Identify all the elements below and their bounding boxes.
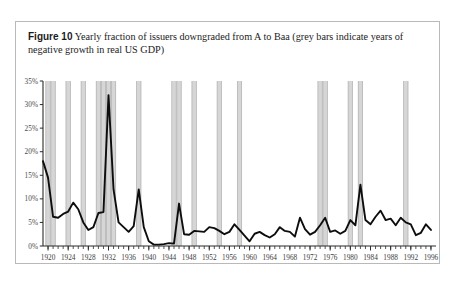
x-axis-tick-label: 1928 bbox=[81, 253, 96, 262]
recession-band-edge bbox=[115, 81, 116, 246]
y-axis-tick-label: 15% bbox=[25, 171, 38, 180]
y-axis-tick-label: 5% bbox=[28, 218, 38, 227]
recession-band-edge bbox=[70, 81, 71, 246]
recession-band-edge bbox=[241, 81, 242, 246]
recession-band-edge bbox=[192, 81, 193, 246]
x-axis-tick-label: 1972 bbox=[303, 253, 318, 262]
recession-band-edge bbox=[66, 81, 67, 246]
recession-band bbox=[192, 81, 197, 246]
recession-band-edge bbox=[408, 81, 409, 246]
recession-band bbox=[96, 81, 101, 246]
x-axis-tick-label: 1992 bbox=[404, 253, 419, 262]
recession-band-edge bbox=[318, 81, 319, 246]
x-axis-tick-label: 1980 bbox=[343, 253, 358, 262]
recession-band bbox=[237, 81, 242, 246]
y-axis-tick-label: 25% bbox=[25, 124, 38, 133]
x-axis-tick-label: 1924 bbox=[61, 253, 76, 262]
y-axis-tick-label: 35% bbox=[25, 77, 38, 86]
recession-band-edge bbox=[50, 81, 51, 246]
recession-bands-group bbox=[46, 81, 409, 246]
recession-band bbox=[358, 81, 363, 246]
x-axis-tick-label: 1948 bbox=[182, 253, 197, 262]
recession-band-edge bbox=[81, 81, 82, 246]
recession-band-edge bbox=[85, 81, 86, 246]
recession-band-edge bbox=[136, 81, 137, 246]
x-axis-tick-label: 1932 bbox=[101, 253, 116, 262]
x-axis-tick-label: 1960 bbox=[242, 253, 257, 262]
x-axis-tick-label: 1956 bbox=[222, 253, 237, 262]
x-axis-tick-label: 1996 bbox=[424, 253, 439, 262]
y-axis-tick-label: 20% bbox=[25, 147, 38, 156]
x-axis-tick-label: 1920 bbox=[41, 253, 56, 262]
recession-band bbox=[136, 81, 141, 246]
recession-band-edge bbox=[101, 81, 102, 246]
y-axis-tick-label: 0% bbox=[28, 242, 38, 251]
x-axis-tick-label: 1944 bbox=[162, 253, 177, 262]
x-axis-tick-label: 1976 bbox=[323, 253, 338, 262]
recession-band-edge bbox=[51, 81, 52, 246]
y-axis-tick-label: 30% bbox=[25, 100, 38, 109]
figure-container: Figure 10 Yearly fraction of issuers dow… bbox=[15, 21, 440, 264]
x-axis-tick-label: 1984 bbox=[363, 253, 378, 262]
x-axis-ticks-group: 1920192419281932193619401944194819521956… bbox=[41, 246, 439, 262]
recession-band-edge bbox=[196, 81, 197, 246]
recession-band-edge bbox=[46, 81, 47, 246]
recession-band-edge bbox=[110, 81, 111, 246]
x-axis-tick-label: 1988 bbox=[383, 253, 398, 262]
downgrade-fraction-line-chart: 0%5%10%15%20%25%30%35%192019241928193219… bbox=[16, 22, 441, 265]
recession-band bbox=[66, 81, 71, 246]
recession-band-edge bbox=[237, 81, 238, 246]
recession-band-edge bbox=[362, 81, 363, 246]
recession-band-edge bbox=[55, 81, 56, 246]
x-axis-tick-label: 1968 bbox=[283, 253, 298, 262]
x-axis-tick-label: 1940 bbox=[142, 253, 157, 262]
recession-band-edge bbox=[171, 81, 172, 246]
recession-band-edge bbox=[358, 81, 359, 246]
x-axis-tick-label: 1936 bbox=[121, 253, 136, 262]
recession-band-edge bbox=[100, 81, 101, 246]
chart-plot-area: 0%5%10%15%20%25%30%35%192019241928193219… bbox=[16, 22, 441, 265]
recession-band bbox=[51, 81, 56, 246]
recession-band bbox=[171, 81, 176, 246]
y-axis-ticks-group: 0%5%10%15%20%25%30%35% bbox=[25, 77, 43, 251]
recession-band-edge bbox=[348, 81, 349, 246]
y-axis-tick-label: 10% bbox=[25, 194, 38, 203]
x-axis-tick-label: 1952 bbox=[202, 253, 217, 262]
recession-band bbox=[46, 81, 51, 246]
x-axis-tick-label: 1964 bbox=[262, 253, 277, 262]
recession-band-edge bbox=[217, 81, 218, 246]
recession-band bbox=[217, 81, 222, 246]
recession-band-edge bbox=[141, 81, 142, 246]
recession-band-edge bbox=[221, 81, 222, 246]
